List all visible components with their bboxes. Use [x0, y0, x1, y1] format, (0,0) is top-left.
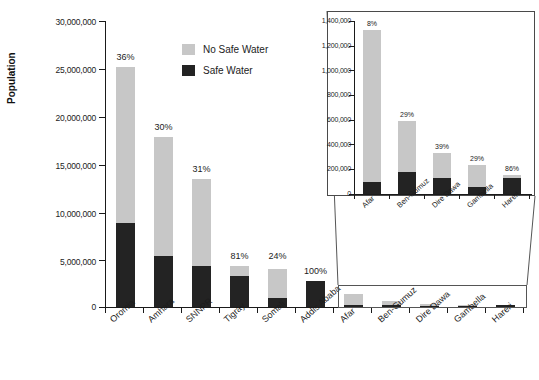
inset-y-tick-label: 200,000 — [283, 165, 351, 172]
legend-swatch-safe-water-icon — [182, 65, 195, 76]
inset-y-tick-label: 800,000 — [283, 91, 351, 98]
y-tick-label: 5,000,000 — [4, 257, 96, 267]
inset-y-tick-label: 0 — [283, 190, 351, 197]
y-tick-mark — [99, 213, 105, 214]
x-tick-mark — [181, 307, 182, 313]
y-tick-label: 10,000,000 — [4, 209, 96, 219]
legend-entry-safe-water: Safe Water — [182, 62, 268, 79]
y-axis-title: Population — [6, 52, 17, 104]
inset-y-tick-label: 600,000 — [283, 116, 351, 123]
chart-canvas: Population 30,000,000 25,000,000 20,000,… — [0, 0, 539, 380]
x-category-label-tigray: Tigray — [222, 300, 247, 324]
x-tick-mark — [219, 307, 220, 313]
inset-y-tick-label: 1,000,000 — [283, 67, 351, 74]
legend-label-no-safe-water: No Safe Water — [203, 44, 268, 55]
bar-oromia — [116, 67, 135, 307]
x-tick-mark — [257, 307, 258, 313]
inset-y-tick-label: 400,000 — [283, 141, 351, 148]
legend-entry-no-safe-water: No Safe Water — [182, 41, 268, 58]
inset-bar-annotation-ben-gumuz: 29% — [387, 111, 427, 118]
y-tick-mark — [99, 117, 105, 118]
bar-snnpr — [192, 179, 211, 307]
y-tick-label: 0 — [4, 302, 96, 312]
y-tick-label: 15,000,000 — [4, 161, 96, 171]
inset-x-tick-mark — [529, 194, 530, 199]
y-tick-label: 30,000,000 — [4, 17, 96, 27]
y-axis-line — [105, 21, 106, 308]
x-category-label-afar: Afar — [338, 306, 357, 324]
bar-segment-no-safe-water — [363, 30, 381, 194]
legend-label-safe-water: Safe Water — [203, 65, 253, 76]
bar-annotation-somali: 24% — [253, 251, 302, 261]
inset-bar-afar — [363, 30, 381, 194]
x-tick-mark — [143, 307, 144, 313]
y-tick-mark — [99, 260, 105, 261]
x-tick-mark — [333, 307, 334, 313]
inset-bar-ben-gumuz — [398, 121, 416, 194]
y-tick-mark — [99, 165, 105, 166]
x-tick-mark — [295, 307, 296, 313]
bar-annotation-addis-ababa: 100% — [289, 266, 342, 276]
inset-y-tick-label: 1,200,000 — [283, 42, 351, 49]
x-tick-mark — [105, 307, 106, 313]
bar-segment-safe-water — [363, 182, 381, 194]
inset-bar-chart: 1,400,000 1,200,000 1,000,000 800,000 60… — [327, 11, 535, 196]
bar-amhara — [154, 137, 173, 307]
inset-bar-annotation-afar: 8% — [352, 20, 392, 27]
y-tick-mark — [99, 21, 105, 22]
inset-y-tick-label: 1,400,000 — [283, 17, 351, 24]
bar-annotation-amhara: 30% — [139, 122, 188, 132]
chart-legend: No Safe Water Safe Water — [182, 41, 268, 83]
inset-x-tick-mark — [354, 194, 355, 199]
y-tick-label: 25,000,000 — [4, 65, 96, 75]
inset-bar-annotation-gambella: 29% — [457, 155, 497, 162]
y-tick-mark — [99, 69, 105, 70]
inset-bar-annotation-dire-dawa: 39% — [422, 143, 462, 150]
inset-bar-annotation-hareri: 86% — [492, 165, 532, 172]
bar-annotation-oromia: 36% — [101, 52, 150, 62]
callout-highlight-box — [338, 285, 527, 308]
inset-y-axis-line — [354, 21, 355, 194]
bar-segment-safe-water — [116, 223, 135, 307]
bar-annotation-snnpr: 31% — [177, 164, 226, 174]
inset-x-tick-mark — [459, 194, 460, 199]
inset-x-tick-mark — [424, 194, 425, 199]
inset-x-tick-mark — [389, 194, 390, 199]
legend-swatch-no-safe-water-icon — [182, 44, 195, 55]
inset-x-tick-mark — [494, 194, 495, 199]
y-tick-label: 20,000,000 — [4, 113, 96, 123]
